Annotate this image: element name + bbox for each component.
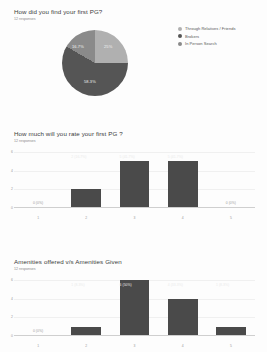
bar-slot: 2 (16.7%) — [62, 152, 110, 208]
plot-area: 6 4 2 0 0 (0%)1 (8.3%)6 (50%)4 (33.3%)1 … — [14, 280, 255, 336]
bar-slot: 0 (0%) — [14, 280, 62, 336]
x-tick-label: 2 — [62, 216, 110, 220]
bar[interactable]: 2 (16.7%) — [71, 189, 101, 208]
chart-section-amenities: Amenities offered v/s Amenities Given 12… — [0, 258, 267, 350]
y-tick-1: 2 — [4, 187, 13, 191]
chart-title-rating: How much will you rate your first PG ? — [14, 130, 267, 138]
bar-value-label: 0 (0%) — [33, 201, 43, 205]
legend-swatch-icon — [178, 34, 182, 38]
bar[interactable]: 4 (33.3%) — [168, 299, 198, 336]
y-tick-0: 0 — [4, 334, 13, 338]
bar-value-label: 1 (8.3%) — [216, 283, 229, 287]
x-tick-label: 1 — [14, 344, 62, 348]
x-tick-label: 4 — [159, 216, 207, 220]
pie-slice-label-0: 25% — [104, 44, 112, 49]
x-tick-label: 1 — [14, 216, 62, 220]
chart-title-amenities: Amenities offered v/s Amenities Given — [14, 258, 267, 266]
legend-swatch-icon — [178, 42, 182, 46]
legend-label-0: Through Relatives / Friends — [185, 26, 235, 31]
bar-value-label: 2 (16.7%) — [71, 155, 86, 159]
x-tick-label: 2 — [62, 344, 110, 348]
bar-slot: 0 (0%) — [14, 152, 62, 208]
x-tick-label: 3 — [110, 216, 158, 220]
bar-slot: 4 (33.3%) — [159, 280, 207, 336]
y-tick-0: 0 — [4, 206, 13, 210]
legend-swatch-icon — [178, 27, 182, 31]
y-tick-2: 4 — [4, 297, 13, 301]
chart-section-pie: How did you find your first PG? 12 respo… — [0, 8, 267, 108]
pie-chart — [62, 30, 128, 96]
pie-chart-area: 25% 58.3% 16.7% Through Relatives / Frie… — [0, 22, 267, 108]
pie-slice-label-1: 58.3% — [84, 79, 96, 84]
bar[interactable]: 5 (41.7%) — [120, 161, 150, 208]
bar-value-label: 6 (50%) — [120, 283, 132, 287]
bar-slot: 5 (41.7%) — [110, 152, 158, 208]
legend-item-0[interactable]: Through Relatives / Friends — [178, 26, 235, 31]
x-tick-label: 4 — [159, 344, 207, 348]
x-tick-label: 5 — [207, 344, 255, 348]
x-tick-label: 5 — [207, 216, 255, 220]
bar-value-label: 1 (8.3%) — [71, 283, 84, 287]
chart-title-pie: How did you find your first PG? — [14, 8, 267, 16]
bar-slot: 1 (8.3%) — [207, 280, 255, 336]
bar[interactable]: 6 (50%) — [120, 280, 150, 336]
y-tick-3: 6 — [4, 150, 13, 154]
bar-slot: 0 (0%) — [207, 152, 255, 208]
x-axis-line — [14, 335, 255, 336]
x-tick-label: 3 — [110, 344, 158, 348]
bar-group: 0 (0%)2 (16.7%)5 (41.7%)5 (41.7%)0 (0%) — [14, 152, 255, 208]
bar-value-label: 5 (41.7%) — [168, 155, 183, 159]
legend-item-1[interactable]: Brokers — [178, 34, 235, 39]
bar-slot: 5 (41.7%) — [159, 152, 207, 208]
bar[interactable]: 5 (41.7%) — [168, 161, 198, 208]
pie-slice-label-2: 16.7% — [72, 44, 84, 49]
y-tick-3: 6 — [4, 278, 13, 282]
y-tick-2: 4 — [4, 169, 13, 173]
y-tick-1: 2 — [4, 315, 13, 319]
chart-subtitle-amenities: 12 responses — [14, 266, 267, 272]
bar-chart-amenities: 6 4 2 0 0 (0%)1 (8.3%)6 (50%)4 (33.3%)1 … — [0, 276, 267, 350]
bar-group: 0 (0%)1 (8.3%)6 (50%)4 (33.3%)1 (8.3%) — [14, 280, 255, 336]
x-axis-line — [14, 207, 255, 208]
bar-value-label: 0 (0%) — [33, 329, 43, 333]
chart-section-rating: How much will you rate your first PG ? 1… — [0, 130, 267, 222]
bar-value-label: 0 (0%) — [226, 201, 236, 205]
chart-subtitle-rating: 12 responses — [14, 138, 267, 144]
legend-label-2: In Person Search — [185, 41, 217, 46]
bar-slot: 1 (8.3%) — [62, 280, 110, 336]
bar-value-label: 4 (33.3%) — [168, 283, 183, 287]
x-axis-labels: 12345 — [14, 344, 255, 348]
plot-area: 6 4 2 0 0 (0%)2 (16.7%)5 (41.7%)5 (41.7%… — [14, 152, 255, 208]
bar-slot: 6 (50%) — [110, 280, 158, 336]
bar-value-label: 5 (41.7%) — [120, 155, 135, 159]
bar-chart-rating: 6 4 2 0 0 (0%)2 (16.7%)5 (41.7%)5 (41.7%… — [0, 148, 267, 222]
pie-legend: Through Relatives / Friends Brokers In P… — [178, 26, 235, 49]
x-axis-labels: 12345 — [14, 216, 255, 220]
legend-label-1: Brokers — [185, 34, 199, 39]
form-responses-page: How did you find your first PG? 12 respo… — [0, 0, 267, 352]
legend-item-2[interactable]: In Person Search — [178, 41, 235, 46]
